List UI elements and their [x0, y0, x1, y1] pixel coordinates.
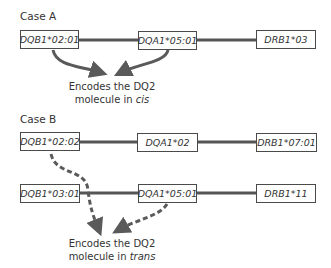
arrow-dqa1-to-note-case-b	[120, 204, 167, 229]
allele-box-dqa1-case-b-2: DQA1*05:01	[138, 184, 197, 203]
case-a-note-line1: Encodes the DQ2	[52, 80, 172, 93]
case-a-note-prefix: molecule in	[75, 94, 136, 105]
case-a-note: Encodes the DQ2 molecule in cis	[52, 80, 172, 106]
case-b-note-line2: molecule in trans	[52, 250, 172, 263]
allele-box-drb1-case-a: DRB1*03	[256, 30, 316, 49]
case-a-label: Case A	[20, 10, 56, 22]
case-a-note-line2: molecule in cis	[52, 93, 172, 106]
allele-box-drb1-case-b-2: DRB1*11	[256, 184, 316, 203]
case-b-note-trans: trans	[130, 251, 156, 262]
case-b-note-line1: Encodes the DQ2	[52, 237, 172, 250]
allele-box-dqb1-case-b-2: DQB1*03:01	[20, 184, 80, 203]
case-b-note: Encodes the DQ2 molecule in trans	[52, 237, 172, 263]
case-b-note-prefix: molecule in	[69, 251, 130, 262]
allele-box-dqb1-case-a: DQB1*02:01	[20, 30, 79, 49]
case-a-note-cis: cis	[136, 94, 150, 105]
allele-box-drb1-case-b-1: DRB1*07:01	[256, 133, 317, 152]
allele-box-dqa1-case-a: DQA1*05:01	[138, 31, 197, 50]
arrow-dqa1-to-note-case-a	[122, 50, 168, 72]
arrow-dqb1-to-note-case-a	[53, 50, 99, 72]
case-b-label: Case B	[20, 113, 56, 125]
allele-box-dqb1-case-b-1: DQB1*02:02	[20, 132, 80, 151]
allele-box-dqa1-case-b-1: DQA1*02	[137, 133, 198, 152]
